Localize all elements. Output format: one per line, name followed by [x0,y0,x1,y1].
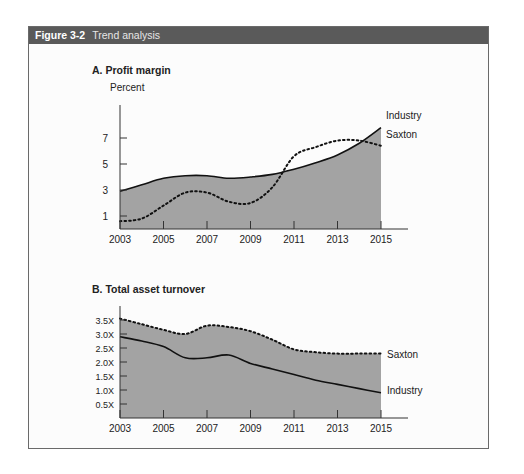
chart-a-industry-area [120,128,381,229]
y-tick-label: 7 [102,133,108,144]
y-tick-label: 2.5X [95,344,114,354]
y-tick-label: 3.0X [95,330,114,340]
x-tick-label: 2015 [370,423,393,434]
chart-a-legend-saxton: Saxton [386,129,417,140]
x-tick-label: 2009 [239,234,262,245]
x-tick-label: 2005 [152,234,175,245]
chart-profit-margin: A. Profit margin Percent 1357 2003200520… [92,64,422,245]
y-tick-label: 3.5X [95,316,114,326]
x-tick-label: 2013 [326,423,349,434]
chart-a-title: A. Profit margin [92,64,171,76]
x-tick-label: 2005 [152,423,175,434]
chart-a-legend-industry: Industry [386,110,422,121]
chart-a-ylabel: Percent [110,82,145,93]
y-tick-label: 1.0X [95,386,114,396]
x-tick-label: 2003 [109,423,132,434]
x-tick-label: 2015 [370,234,393,245]
x-tick-label: 2007 [196,423,219,434]
y-tick-label: 3 [102,185,108,196]
chart-total-asset-turnover: B. Total asset turnover 0.5X1.0X1.5X2.0X… [92,283,423,434]
y-tick-label: 5 [102,159,108,170]
chart-b-saxton-area [120,319,381,418]
chart-b-legend-saxton: Saxton [387,349,418,360]
y-tick-label: 2.0X [95,358,114,368]
x-tick-label: 2013 [326,234,349,245]
x-tick-label: 2011 [283,423,305,434]
y-tick-label: 1.5X [95,372,114,382]
y-tick-label: 1 [102,211,108,222]
x-tick-label: 2003 [109,234,132,245]
x-tick-label: 2011 [283,234,305,245]
charts-canvas: A. Profit margin Percent 1357 2003200520… [0,0,524,474]
chart-b-title: B. Total asset turnover [92,283,205,295]
chart-b-legend-industry: Industry [387,385,423,396]
y-tick-label: 0.5X [95,400,114,410]
x-tick-label: 2007 [196,234,219,245]
x-tick-label: 2009 [239,423,262,434]
